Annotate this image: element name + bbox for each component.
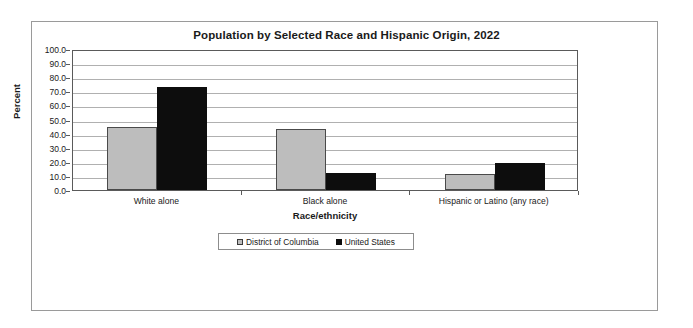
y-tick-mark (66, 163, 70, 164)
bar (276, 129, 326, 190)
y-tick-label: 90.0 (49, 59, 66, 69)
x-tick-label: White alone (134, 196, 179, 206)
legend-entry: United States (336, 237, 395, 247)
y-tick-mark (66, 149, 70, 150)
y-tick-mark (66, 50, 70, 51)
gridline (73, 79, 577, 80)
y-tick-mark (66, 106, 70, 107)
x-tick-label: Hispanic or Latino (any race) (439, 196, 549, 206)
legend-swatch-icon (336, 239, 342, 245)
x-tick-mark (578, 191, 579, 195)
bar (157, 87, 207, 190)
y-tick-label: 100.0 (45, 45, 66, 55)
x-tick-mark (409, 191, 410, 195)
plot-area (72, 50, 578, 191)
x-axis-tick-labels: White aloneBlack aloneHispanic or Latino… (72, 196, 578, 210)
bar (495, 163, 545, 190)
y-tick-mark (66, 121, 70, 122)
gridline (73, 93, 577, 94)
y-tick-mark (66, 64, 70, 65)
gridline (73, 65, 577, 66)
y-tick-label: 80.0 (49, 73, 66, 83)
bar (107, 127, 157, 190)
bar (445, 174, 495, 190)
y-tick-label: 20.0 (49, 158, 66, 168)
y-tick-mark (66, 177, 70, 178)
legend-swatch-icon (237, 239, 243, 245)
legend-entry: District of Columbia (237, 237, 319, 247)
y-tick-label: 0.0 (54, 186, 66, 196)
y-tick-label: 70.0 (49, 87, 66, 97)
legend-label: United States (345, 237, 395, 247)
x-tick-label: Black alone (303, 196, 347, 206)
x-axis-title: Race/ethnicity (72, 210, 578, 221)
gridline (73, 122, 577, 123)
y-tick-mark (66, 135, 70, 136)
y-tick-label: 60.0 (49, 101, 66, 111)
chart-legend: District of ColumbiaUnited States (218, 233, 414, 250)
x-tick-mark (241, 191, 242, 195)
y-tick-label: 50.0 (49, 116, 66, 126)
y-tick-label: 30.0 (49, 144, 66, 154)
chart-title: Population by Selected Race and Hispanic… (0, 29, 693, 41)
y-tick-mark (66, 78, 70, 79)
y-axis-tick-labels: 0.010.020.030.040.050.060.070.080.090.01… (14, 50, 70, 191)
y-tick-mark (66, 92, 70, 93)
legend-label: District of Columbia (246, 237, 319, 247)
y-tick-mark (66, 191, 70, 192)
y-tick-label: 40.0 (49, 130, 66, 140)
gridline (73, 107, 577, 108)
y-tick-label: 10.0 (49, 172, 66, 182)
bar (326, 173, 376, 190)
